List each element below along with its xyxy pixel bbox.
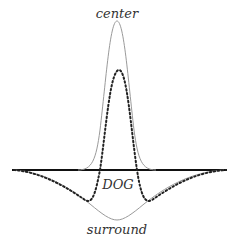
dog-diagram: center DOG surround xyxy=(0,0,233,240)
center-curve xyxy=(78,21,156,170)
dog-label: DOG xyxy=(101,177,133,192)
center-label: center xyxy=(96,6,139,21)
surround-label: surround xyxy=(87,222,147,237)
